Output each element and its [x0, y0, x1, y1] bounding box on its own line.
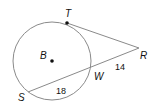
measure-WS: 18 [56, 86, 66, 96]
point-B-center [50, 59, 54, 63]
label-S: S [18, 92, 25, 103]
label-B: B [40, 50, 47, 61]
tangent-segment-RT [67, 23, 139, 48]
label-W: W [94, 71, 105, 82]
measure-RW: 14 [115, 62, 125, 72]
label-T: T [65, 8, 72, 19]
geometry-diagram: T B R W S 14 18 [0, 0, 155, 105]
label-R: R [140, 50, 147, 61]
point-T [65, 21, 69, 25]
